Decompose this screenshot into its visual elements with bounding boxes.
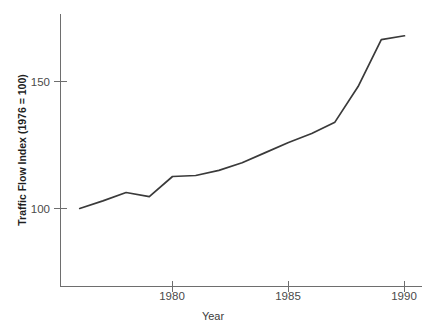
- chart-figure: 150 100 1980 1985 1990 Year Traffic Flow…: [0, 0, 436, 329]
- x-tick-label-1980: 1980: [159, 290, 185, 302]
- y-axis-title: Traffic Flow Index (1976 = 100): [16, 74, 28, 225]
- x-tick-label-1985: 1985: [275, 290, 301, 302]
- x-tick-label-1990: 1990: [391, 290, 417, 302]
- line-chart: 150 100 1980 1985 1990 Year Traffic Flow…: [0, 0, 436, 329]
- y-tick-label-150: 150: [31, 76, 50, 88]
- y-tick-label-100: 100: [31, 203, 50, 215]
- x-axis-title: Year: [202, 310, 225, 322]
- chart-background: [0, 0, 436, 329]
